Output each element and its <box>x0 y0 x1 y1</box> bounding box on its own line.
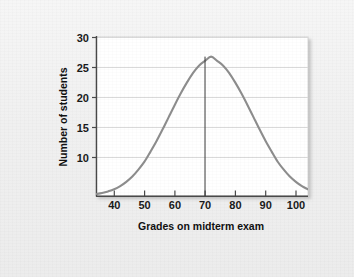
y-axis-tick-labels: 30 25 20 15 10 <box>77 32 89 164</box>
xtick-label-80: 80 <box>229 199 241 211</box>
y-axis-title: Number of students <box>57 67 69 166</box>
ytick-label-10: 10 <box>77 152 89 164</box>
ytick-label-30: 30 <box>77 32 89 44</box>
xtick-label-100: 100 <box>287 199 305 211</box>
figure-container: 30 25 20 15 10 40 50 60 70 80 90 100 <box>0 0 354 277</box>
ytick-label-20: 20 <box>77 92 89 104</box>
xtick-label-60: 60 <box>169 199 181 211</box>
plot-area-panel <box>96 37 308 196</box>
ytick-label-15: 15 <box>77 122 89 134</box>
x-axis-title: Grades on midterm exam <box>138 220 264 232</box>
xtick-label-70: 70 <box>199 199 211 211</box>
xtick-label-50: 50 <box>138 199 150 211</box>
y-axis-ticks <box>92 38 96 158</box>
grades-distribution-chart: 30 25 20 15 10 40 50 60 70 80 90 100 <box>0 0 354 277</box>
xtick-label-40: 40 <box>108 199 120 211</box>
xtick-label-90: 90 <box>260 199 272 211</box>
ytick-label-25: 25 <box>77 62 89 74</box>
x-axis-tick-labels: 40 50 60 70 80 90 100 <box>108 199 305 211</box>
